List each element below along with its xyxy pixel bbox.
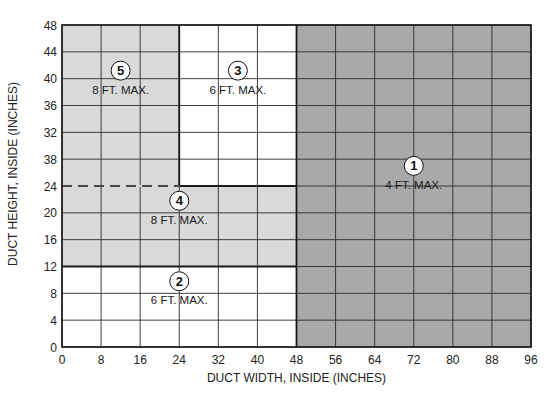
y-tick-label: 20 — [44, 206, 58, 220]
y-axis-label: DUCT HEIGHT, INSIDE (INCHES) — [6, 82, 20, 266]
y-tick-label: 16 — [44, 233, 58, 247]
x-tick-label: 96 — [524, 353, 538, 367]
y-tick-label: 4 — [50, 314, 57, 328]
x-tick-label: 48 — [290, 353, 304, 367]
y-tick-label: 38 — [44, 153, 58, 167]
x-axis-ticks: 081624324048566472808896 — [59, 353, 538, 367]
x-tick-label: 64 — [368, 353, 382, 367]
duct-size-chart: 081624324048566472808896 048121620243832… — [0, 0, 556, 401]
region-number: 3 — [234, 63, 241, 78]
region-number: 2 — [176, 274, 183, 289]
y-tick-label: 44 — [44, 45, 58, 59]
y-tick-label: 32 — [44, 126, 58, 140]
y-tick-label: 36 — [44, 99, 58, 113]
y-tick-label: 40 — [44, 72, 58, 86]
y-axis-ticks: 04812162024383236404448 — [44, 19, 58, 355]
region-max-label: 8 FT. MAX. — [92, 84, 149, 96]
region-max-label: 4 FT. MAX. — [385, 179, 442, 191]
x-tick-label: 16 — [133, 353, 147, 367]
y-tick-label: 8 — [50, 287, 57, 301]
x-tick-label: 56 — [329, 353, 343, 367]
region-max-label: 6 FT. MAX. — [151, 294, 208, 306]
x-axis-label: DUCT WIDTH, INSIDE (INCHES) — [207, 371, 386, 385]
x-tick-label: 40 — [251, 353, 265, 367]
y-tick-label: 0 — [50, 341, 57, 355]
region-number: 4 — [176, 193, 184, 208]
y-tick-label: 48 — [44, 19, 58, 33]
x-tick-label: 24 — [173, 353, 187, 367]
y-tick-label: 24 — [44, 180, 58, 194]
region-number: 5 — [117, 63, 124, 78]
x-tick-label: 88 — [485, 353, 499, 367]
x-tick-label: 32 — [212, 353, 226, 367]
x-tick-label: 8 — [98, 353, 105, 367]
x-tick-label: 72 — [407, 353, 421, 367]
y-tick-label: 12 — [44, 260, 58, 274]
region-number: 1 — [410, 158, 417, 173]
region-max-label: 8 FT. MAX. — [151, 214, 208, 226]
x-tick-label: 80 — [446, 353, 460, 367]
region-max-label: 6 FT. MAX. — [209, 84, 266, 96]
x-tick-label: 0 — [59, 353, 66, 367]
